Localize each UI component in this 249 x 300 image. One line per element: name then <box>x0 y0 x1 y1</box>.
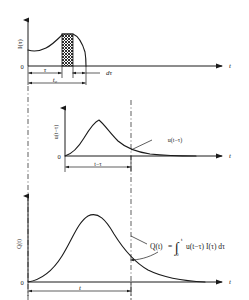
formula-lhs: Q(t) <box>150 242 163 251</box>
t0-dimension-label: t₀ <box>53 76 58 84</box>
output-y-axis-label: Q(t) <box>16 239 23 249</box>
t-minus-tau-dimension-label: t−τ <box>94 161 102 167</box>
dtau-dimension-label: dτ <box>106 69 113 77</box>
convolution-figure: I(τ) 0 t τ dτ t₀ u(t−τ) 0 t u(t−τ) <box>0 0 249 300</box>
input-origin-label: 0 <box>20 63 23 70</box>
input-function-panel: I(τ) 0 t τ dτ t₀ <box>16 20 232 85</box>
formula-equals: = <box>168 242 172 251</box>
response-annotation-leader <box>131 140 152 150</box>
response-y-axis-label: u(t−τ) <box>53 125 60 139</box>
convolution-formula: Q(t) = ∫ t 0 u(t−τ) I(τ) dτ <box>150 237 225 257</box>
response-curve-annotation: u(t−τ) <box>168 137 182 144</box>
formula-upper-limit: t <box>181 237 183 242</box>
formula-integrand: u(t−τ) I(τ) dτ <box>186 242 225 251</box>
dtau-strip <box>62 34 73 66</box>
output-origin-label: 0 <box>20 279 23 286</box>
response-x-axis-label: t <box>229 152 232 160</box>
unit-response-panel: u(t−τ) 0 t u(t−τ) t−τ <box>53 108 232 172</box>
output-x-axis-label: t <box>229 278 232 286</box>
input-y-axis-label: I(τ) <box>16 38 24 48</box>
output-function-panel: Q(t) 0 t Q(t) = ∫ t 0 u(t−τ) I(τ) dτ t <box>16 196 232 296</box>
formula-leader-upper <box>131 236 147 244</box>
input-curve <box>28 34 86 66</box>
input-x-axis-label: t <box>229 62 232 70</box>
response-origin-label: 0 <box>57 153 60 160</box>
